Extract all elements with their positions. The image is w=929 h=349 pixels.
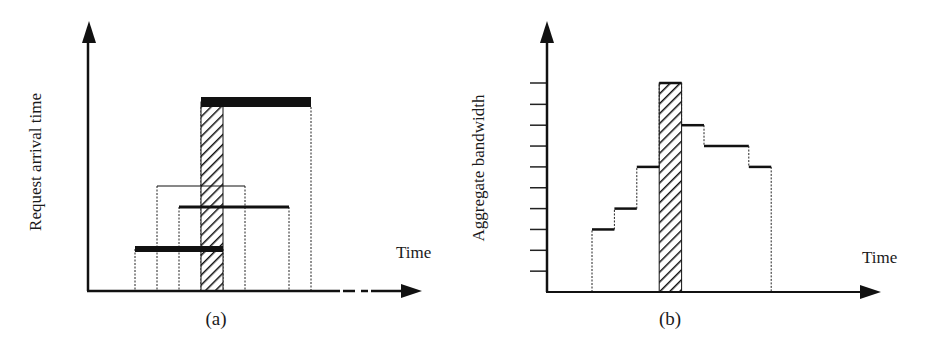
- panel-b-highlight-hatched-column: [659, 83, 681, 292]
- panel-a-y-axis-arrowhead: [82, 21, 96, 43]
- panel-b-y-ticks: [530, 83, 547, 271]
- panel-b-marks: [592, 83, 771, 292]
- panel-a-x-axis-label: Time: [396, 243, 431, 262]
- panel-b-x-axis-label: Time: [862, 248, 897, 267]
- panel-b-caption: (b): [659, 308, 681, 330]
- panel-a-x-axis-arrowhead: [401, 284, 422, 298]
- panel-a-request-4-bar: [201, 97, 311, 107]
- panel-b-x-axis-arrowhead: [860, 285, 881, 299]
- panel-a-highlight-hatched-column: [201, 102, 223, 291]
- figure: Request arrival time Time (a) Aggregate …: [0, 0, 929, 349]
- panel-b: Aggregate bandwidth Time (b): [469, 21, 897, 330]
- panel-a-caption: (a): [205, 308, 226, 330]
- panel-b-y-axis-arrowhead: [540, 21, 554, 43]
- panel-b-y-axis-label: Aggregate bandwidth: [469, 94, 488, 241]
- panel-a: Request arrival time Time (a): [26, 21, 431, 330]
- panel-a-y-axis-label: Request arrival time: [26, 93, 45, 231]
- panel-a-marks: [135, 97, 311, 291]
- panel-a-request-1-bar: [135, 246, 223, 252]
